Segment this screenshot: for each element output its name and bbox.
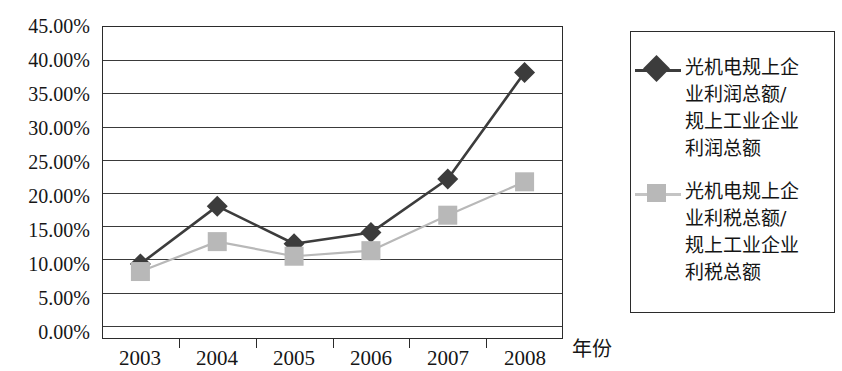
x-axis-label-group: 2003 2004 2005 2006 2007 2008 [0,345,842,371]
x-tick-label: 2008 [485,345,565,371]
square-marker-icon [631,180,685,208]
y-axis-label-group: 45.00% 40.00% 35.00% 30.00% 25.00% 20.00… [0,0,96,371]
y-tick-label: 35.00% [0,84,90,104]
data-point [361,241,380,260]
line-chart: 45.00% 40.00% 35.00% 30.00% 25.00% 20.00… [0,0,842,371]
legend-entry-profit: 光机电规上企 业利润总额/ 规上工业企业 利润总额 [631,54,835,162]
legend-label: 光机电规上企 业利税总额/ 规上工业企业 利税总额 [685,178,835,286]
x-tick-label: 2005 [254,345,334,371]
data-point [131,262,150,281]
diamond-marker-icon [631,56,685,84]
data-point [437,169,458,190]
legend: 光机电规上企 业利润总额/ 规上工业企业 利润总额 光机电规上企 业利税总额/ … [630,31,835,313]
data-point [438,206,457,225]
x-tick-label: 2003 [100,345,180,371]
series-line [140,182,524,272]
x-axis-title: 年份 [572,336,612,362]
series-layer [102,26,563,339]
y-tick-label: 30.00% [0,118,90,138]
data-point [360,222,381,243]
x-tick-label: 2007 [408,345,488,371]
y-tick-label: 20.00% [0,186,90,206]
y-tick-label: 0.00% [0,322,90,342]
data-point [515,172,534,191]
data-point [207,196,228,217]
y-tick-label: 15.00% [0,220,90,240]
data-point [514,62,535,83]
data-point [285,247,304,266]
y-tick-label: 40.00% [0,50,90,70]
series-line [140,73,524,264]
y-tick-label: 5.00% [0,288,90,308]
legend-entry-tax: 光机电规上企 业利税总额/ 规上工业企业 利税总额 [631,178,835,286]
x-tick-label: 2004 [177,345,257,371]
legend-label: 光机电规上企 业利润总额/ 规上工业企业 利润总额 [685,54,835,162]
x-tick-label: 2006 [331,345,411,371]
data-point [208,232,227,251]
y-tick-label: 45.00% [0,16,90,36]
y-tick-label: 25.00% [0,152,90,172]
y-tick-label: 10.00% [0,254,90,274]
